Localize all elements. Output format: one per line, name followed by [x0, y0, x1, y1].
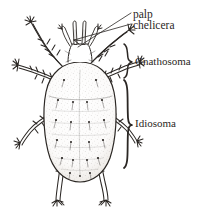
idiosoma	[44, 62, 116, 182]
palp-pair	[58, 24, 102, 46]
mite-anatomy-figure: palp chelicera Gnathosoma Idiosoma	[0, 0, 200, 220]
label-chelicera: chelicera	[133, 19, 175, 31]
label-gnathosoma: Gnathosoma	[135, 56, 191, 68]
mite-illustration	[0, 0, 200, 220]
label-idiosoma: Idiosoma	[135, 118, 176, 130]
brace-idiosoma	[124, 80, 132, 168]
leg-left-1	[25, 16, 64, 68]
brace-gnathosoma	[124, 44, 132, 78]
gnathosoma	[58, 21, 102, 62]
